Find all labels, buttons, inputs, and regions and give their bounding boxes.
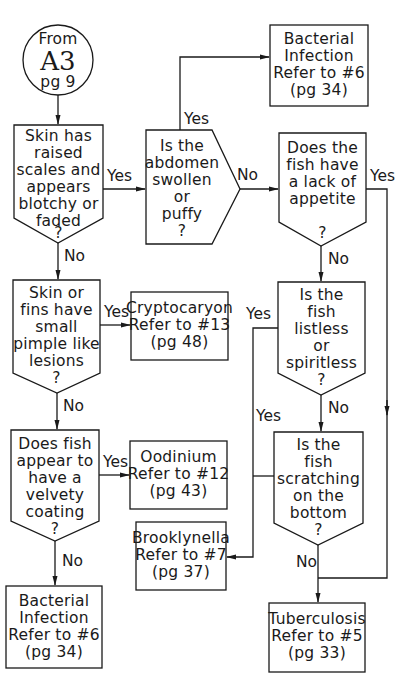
edge-label-yes-abdomen-to-bacterial: Yes [184, 111, 209, 128]
node-text: appear to [17, 453, 94, 470]
node-text: ? [314, 522, 322, 539]
edge-label-no-listless-to-scratching: No [328, 400, 349, 417]
node-text: Bacterial [284, 31, 355, 48]
node-text: ? [52, 370, 60, 387]
node-text: scales and [16, 162, 100, 179]
decision-listless: Is the fish listless or spiritless ? [278, 287, 365, 389]
result-oodinium: Oodinium Refer to #12 (pg 43) [130, 449, 227, 500]
start-page-ref: A3 [40, 48, 76, 74]
edge-label-yes-scratching-to-brooklynella: Yes [256, 408, 281, 425]
node-text: ? [317, 372, 325, 389]
node-text: Skin has [25, 128, 92, 145]
node-text: raised [34, 145, 83, 162]
decision-appetite: Does the fish have a lack of appetite ? [279, 140, 366, 242]
node-text: Bacterial [19, 593, 90, 610]
node-text: pimple like [13, 336, 100, 353]
node-text: appetite [289, 191, 355, 208]
decision-pimple-lesions: Skin or fins have small pimple like lesi… [13, 285, 100, 387]
node-text: swollen [152, 172, 212, 189]
result-tuberculosis: Tuberculosis Refer to #5 (pg 33) [269, 611, 365, 662]
node-text: scratching [277, 471, 360, 488]
node-text: (pg 43) [150, 483, 208, 500]
edge-label-no-abdomen-to-appetite: No [237, 167, 258, 184]
node-text: Oodinium [140, 449, 216, 466]
node-text: fish have [286, 157, 358, 174]
node-text: blotchy or [18, 196, 98, 213]
node-text: ? [318, 225, 326, 242]
result-brooklynella: Brooklynella Refer to #7 (pg 37) [136, 530, 226, 581]
node-text: on the [293, 488, 344, 505]
node-text: Is the [296, 437, 340, 454]
node-text: Refer to #7 [135, 547, 226, 564]
node-text: (pg 34) [25, 644, 83, 661]
result-bacterial-infection-bottom: Bacterial Infection Refer to #6 (pg 34) [6, 593, 102, 661]
decision-abdomen: Is the abdomen swollen or puffy ? [146, 138, 218, 240]
node-text: Refer to #12 [128, 466, 230, 483]
decision-velvety-coating: Does fish appear to have a velvety coati… [11, 436, 99, 538]
node-text: (pg 37) [152, 564, 210, 581]
node-text: Refer to #5 [271, 628, 362, 645]
node-text: Refer to #6 [273, 65, 364, 82]
node-text: (pg 33) [288, 645, 346, 662]
node-text: lesions [29, 353, 84, 370]
edge-label-yes-velvety-to-oodinium: Yes [103, 454, 128, 471]
node-text: Does fish [18, 436, 91, 453]
node-text: have a [28, 470, 82, 487]
node-text: Skin or [29, 285, 84, 302]
edge-label-yes-appetite-to-tuberculosis: Yes [370, 168, 395, 185]
edge-label-no-appetite-to-listless: No [328, 251, 349, 268]
node-text: fish [307, 304, 335, 321]
start-page-label: pg 9 [40, 74, 75, 91]
edge-label-yes-raised-to-abdomen: Yes [107, 168, 132, 185]
node-text: coating [26, 504, 85, 521]
node-text: ? [178, 223, 186, 240]
node-text: (pg 48) [151, 334, 209, 351]
node-text: Infection [284, 48, 353, 65]
decision-scratching: Is the fish scratching on the bottom ? [274, 437, 363, 539]
edge-label-yes-listless-to-brooklynella: Yes [246, 306, 271, 323]
node-text: fish [304, 454, 332, 471]
node-text: bottom [290, 505, 347, 522]
edge-label-no-scratching-to-tuberculosis: No [296, 554, 317, 571]
result-bacterial-infection-top: Bacterial Infection Refer to #6 (pg 34) [270, 31, 368, 99]
node-text: Is the [299, 287, 343, 304]
edge-label-no-pimple-to-velvety: No [63, 398, 84, 415]
node-text: Brooklynella [132, 530, 230, 547]
node-text: spiritless [286, 355, 357, 372]
node-text: a lack of [289, 174, 356, 191]
decision-raised-scales: Skin has raised scales and appears blotc… [14, 128, 103, 242]
node-text: ? [54, 225, 62, 242]
edge-label-yes-pimple-to-cryptocaryon: Yes [104, 304, 129, 321]
node-text: or [313, 338, 329, 355]
node-text: Tuberculosis [268, 611, 365, 628]
node-text: Refer to #6 [8, 627, 99, 644]
node-text: small [35, 319, 77, 336]
node-text: Refer to #13 [129, 317, 231, 334]
node-text: puffy [162, 206, 202, 223]
node-text: Does the [287, 140, 358, 157]
node-text: Is the [160, 138, 204, 155]
node-text: fins have [20, 302, 92, 319]
node-text: or [174, 189, 190, 206]
node-text: listless [294, 321, 348, 338]
start-connector: From A3 pg 9 [23, 31, 93, 91]
node-text: abdomen [145, 155, 220, 172]
node-text: Cryptocaryon [126, 300, 233, 317]
result-cryptocaryon: Cryptocaryon Refer to #13 (pg 48) [131, 300, 228, 351]
node-text: ? [51, 521, 59, 538]
node-text: appears [26, 179, 90, 196]
edge-label-no-raised-to-pimple: No [64, 248, 85, 265]
node-text: (pg 34) [290, 82, 348, 99]
node-text: Infection [19, 610, 88, 627]
edge-label-no-velvety-to-bacterial: No [62, 553, 83, 570]
node-text: velvety [26, 487, 84, 504]
